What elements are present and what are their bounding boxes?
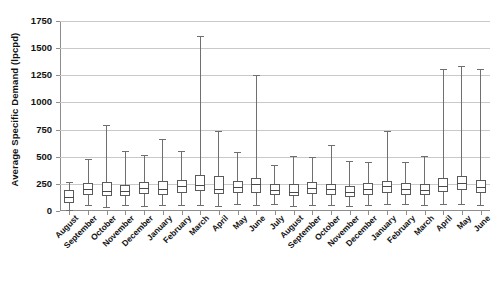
lower-whisker-cap [477, 205, 484, 206]
median-line [177, 186, 187, 187]
lower-whisker-cap [215, 206, 222, 207]
median-line [476, 187, 486, 188]
box-iqr [102, 182, 112, 196]
upper-whisker-cap [309, 157, 316, 158]
upper-whisker-cap [384, 131, 391, 132]
box-whisker [303, 21, 322, 211]
box-iqr [289, 184, 299, 195]
box-whisker [397, 21, 416, 211]
y-tick-label: 1750 [0, 15, 52, 26]
upper-whisker-cap [66, 182, 73, 183]
median-line [120, 191, 130, 192]
upper-whisker [349, 161, 350, 186]
box-whisker [172, 21, 191, 211]
median-line [382, 186, 392, 187]
median-line [251, 184, 261, 185]
box-whisker [415, 21, 434, 211]
box-whisker [284, 21, 303, 211]
upper-whisker-cap [346, 161, 353, 162]
y-tick-label: 250 [0, 178, 52, 189]
box-whisker [210, 21, 229, 211]
lower-whisker [162, 195, 163, 205]
box-whisker [378, 21, 397, 211]
upper-whisker [69, 182, 70, 190]
lower-whisker [405, 195, 406, 205]
lower-whisker [480, 193, 481, 205]
upper-whisker-cap [402, 162, 409, 163]
median-line [457, 183, 467, 184]
median-line [270, 190, 280, 191]
upper-whisker [200, 36, 201, 176]
box-whisker [135, 21, 154, 211]
lower-whisker [349, 197, 350, 206]
lower-whisker [312, 194, 313, 205]
upper-whisker [461, 66, 462, 176]
lower-whisker [293, 196, 294, 206]
median-line [83, 189, 93, 190]
upper-whisker-cap [290, 156, 297, 157]
median-line [139, 188, 149, 189]
upper-whisker [424, 156, 425, 185]
lower-whisker-cap [141, 206, 148, 207]
lower-whisker [387, 193, 388, 204]
median-line [158, 189, 168, 190]
median-line [363, 189, 373, 190]
lower-whisker-cap [402, 204, 409, 205]
upper-whisker-cap [85, 159, 92, 160]
y-tick-label: 0 [0, 205, 52, 216]
upper-whisker-cap [103, 125, 110, 126]
median-line [438, 186, 448, 187]
lower-whisker [461, 190, 462, 204]
median-line [214, 189, 224, 190]
lower-whisker [69, 203, 70, 210]
lower-whisker [424, 195, 425, 205]
median-line [289, 192, 299, 193]
upper-whisker [237, 152, 238, 181]
lower-whisker [144, 194, 145, 205]
box-iqr [158, 181, 168, 195]
upper-whisker [274, 165, 275, 185]
box-whisker [340, 21, 359, 211]
box-iqr [214, 176, 224, 194]
upper-whisker-cap [365, 162, 372, 163]
upper-whisker-cap [159, 139, 166, 140]
lower-whisker-cap [421, 205, 428, 206]
x-tick-label: May [455, 213, 473, 231]
median-line [307, 188, 317, 189]
lower-whisker-cap [458, 204, 465, 205]
x-tick-label: June [247, 213, 268, 234]
median-line [345, 192, 355, 193]
plot-area [60, 21, 490, 211]
median-line [401, 189, 411, 190]
x-tick-label: March [411, 213, 435, 237]
lower-whisker [200, 191, 201, 205]
upper-whisker [331, 145, 332, 184]
y-tick-label: 500 [0, 151, 52, 162]
lower-whisker-cap [103, 207, 110, 208]
boxplot-chart: Average Specific Demand (lpcpd) 02505007… [0, 0, 501, 284]
upper-whisker-cap [197, 36, 204, 37]
median-line [195, 185, 205, 186]
upper-whisker [312, 157, 313, 183]
box-iqr [195, 175, 205, 191]
lower-whisker-cap [440, 204, 447, 205]
upper-whisker [106, 125, 107, 182]
upper-whisker [88, 159, 89, 183]
upper-whisker [218, 131, 219, 177]
upper-whisker-cap [458, 66, 465, 67]
upper-whisker [162, 139, 163, 181]
lower-whisker [331, 195, 332, 205]
box-whisker [359, 21, 378, 211]
lower-whisker [181, 193, 182, 205]
box-whisker [116, 21, 135, 211]
x-tick-label: May [230, 213, 248, 231]
lower-whisker-cap [290, 206, 297, 207]
lower-whisker-cap [178, 205, 185, 206]
median-line [326, 189, 336, 190]
lower-whisker [368, 195, 369, 205]
lower-whisker [237, 193, 238, 204]
lower-whisker [274, 195, 275, 205]
box-whisker [266, 21, 285, 211]
upper-whisker-cap [440, 69, 447, 70]
lower-whisker [256, 193, 257, 205]
